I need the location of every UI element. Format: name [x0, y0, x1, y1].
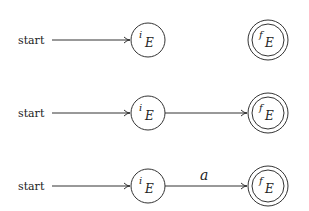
state-subscript: E — [264, 109, 274, 123]
state-base: i — [139, 102, 142, 113]
state-base: i — [139, 29, 142, 40]
state-base: i — [139, 175, 142, 186]
automaton-diagram: start i E f E start i E f E — [0, 0, 309, 211]
automaton-row-3: start i E a f E — [18, 166, 288, 206]
automaton-row-1: start i E f E — [18, 20, 288, 60]
state-subscript: E — [144, 182, 154, 196]
start-label: start — [18, 180, 45, 193]
final-state-node: f E — [248, 20, 288, 60]
initial-state-node: i E — [131, 169, 165, 203]
start-label: start — [18, 107, 45, 120]
state-subscript: E — [144, 36, 154, 50]
state-subscript: E — [264, 182, 274, 196]
final-state-node: f E — [248, 166, 288, 206]
initial-state-node: i E — [131, 96, 165, 130]
transition-label: a — [200, 167, 208, 183]
state-subscript: E — [144, 109, 154, 123]
initial-state-node: i E — [131, 23, 165, 57]
start-label: start — [18, 34, 45, 47]
final-state-node: f E — [248, 93, 288, 133]
automaton-row-2: start i E f E — [18, 93, 288, 133]
state-subscript: E — [264, 36, 274, 50]
